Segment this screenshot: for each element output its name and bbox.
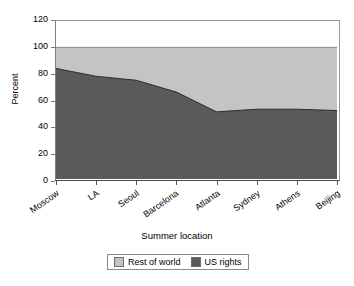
- y-tick-label: 80: [22, 69, 48, 78]
- legend-label-us-rights: US rights: [205, 257, 242, 267]
- legend-item-us-rights[interactable]: US rights: [191, 257, 242, 267]
- legend-item-rest-of-world[interactable]: Rest of world: [114, 257, 181, 267]
- chart-legend: Rest of world US rights: [107, 254, 249, 270]
- x-tick-mark: [96, 181, 97, 185]
- x-tick-label: Beijing: [314, 188, 342, 212]
- legend-swatch-rest-of-world: [114, 257, 124, 267]
- y-tick-label: 120: [22, 15, 48, 24]
- x-tick-mark: [337, 181, 338, 185]
- x-tick-label: Moscow: [28, 188, 61, 215]
- y-axis-title: Percent: [10, 54, 20, 124]
- x-tick-mark: [176, 181, 177, 185]
- x-tick-label: LA: [86, 188, 101, 203]
- x-tick-mark: [297, 181, 298, 185]
- area-chart: Percent 020406080100120 MoscowLASeoulBar…: [0, 0, 354, 286]
- x-tick-label: Barcelona: [142, 188, 181, 219]
- legend-swatch-us-rights: [191, 257, 201, 267]
- x-axis-title: Summer location: [0, 230, 354, 241]
- plot-area: [55, 20, 340, 181]
- x-tick-mark: [136, 181, 137, 185]
- y-tick-label: 20: [22, 149, 48, 158]
- y-tick-label: 100: [22, 42, 48, 51]
- y-tick-mark: [51, 181, 55, 182]
- x-tick-label: Sydney: [231, 188, 261, 213]
- x-tick-label: Atlanta: [193, 188, 222, 212]
- x-tick-mark: [217, 181, 218, 185]
- x-tick-mark: [257, 181, 258, 185]
- x-tick-label: Athens: [273, 188, 302, 212]
- legend-label-rest-of-world: Rest of world: [128, 257, 181, 267]
- x-tick-label: Seoul: [116, 188, 141, 209]
- x-tick-mark: [56, 181, 57, 185]
- y-tick-label: 60: [22, 96, 48, 105]
- y-tick-label: 0: [22, 176, 48, 185]
- y-tick-label: 40: [22, 122, 48, 131]
